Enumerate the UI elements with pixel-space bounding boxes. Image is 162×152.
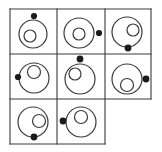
marker-dot xyxy=(143,76,150,83)
marker-dot xyxy=(125,45,132,52)
marker-dot xyxy=(96,30,102,36)
marker-dot xyxy=(15,74,21,80)
marker-dot xyxy=(31,134,38,141)
puzzle-canvas xyxy=(0,0,162,152)
marker-dot xyxy=(31,13,37,19)
marker-dot xyxy=(60,118,67,125)
marker-dot xyxy=(77,56,84,63)
puzzle-figure xyxy=(0,0,162,152)
